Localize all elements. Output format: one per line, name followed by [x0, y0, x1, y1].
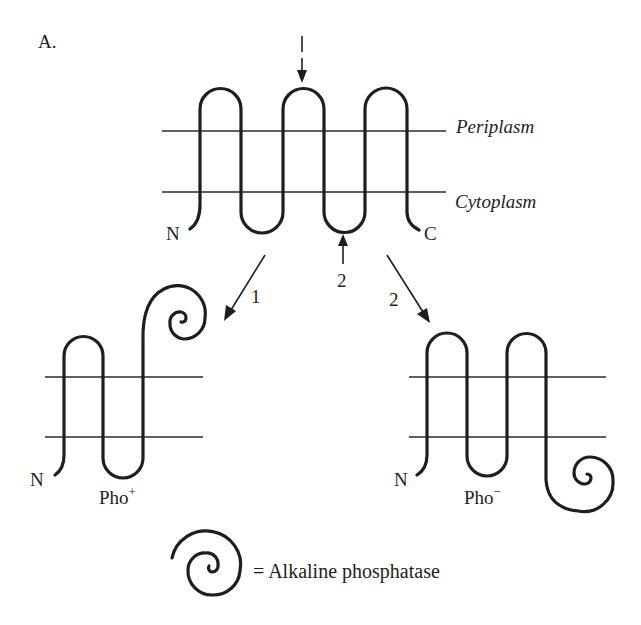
fusion-site-2-label: 2 [337, 270, 347, 291]
fusion-pho-positive: N Pho+ [30, 286, 205, 508]
protein-chain [190, 88, 419, 233]
alkaline-phosphatase-spiral-icon [172, 531, 241, 595]
arrow-1-label: 1 [251, 286, 261, 307]
legend: = Alkaline phosphatase [172, 531, 440, 595]
arrowhead-down-icon [297, 70, 307, 83]
top-topology: N C Periplasm Cytoplasm 2 [162, 36, 536, 291]
topology-diagram: A. N C Periplasm Cytoplasm 2 1 2 N Pho+ [0, 0, 641, 625]
arrowhead-icon [224, 305, 236, 321]
panel-label: A. [38, 31, 56, 52]
periplasm-label: Periplasm [455, 116, 534, 137]
arrow-2-label: 2 [389, 289, 399, 310]
protein-chain-with-phoa [55, 286, 205, 478]
phenotype-label: Pho+ [99, 484, 136, 508]
legend-text: = Alkaline phosphatase [253, 560, 440, 583]
n-terminus-label: N [30, 469, 44, 490]
protein-chain-with-phoa [417, 333, 613, 512]
phenotype-label: Pho− [464, 484, 501, 508]
arrowhead-icon [417, 308, 430, 323]
fusion-pho-negative: N Pho− [394, 333, 613, 512]
n-terminus-label: N [166, 223, 180, 244]
cytoplasm-label: Cytoplasm [455, 191, 536, 212]
c-terminus-label: C [424, 223, 437, 244]
n-terminus-label: N [394, 469, 408, 490]
fusion-arrows: 1 2 [224, 255, 430, 323]
